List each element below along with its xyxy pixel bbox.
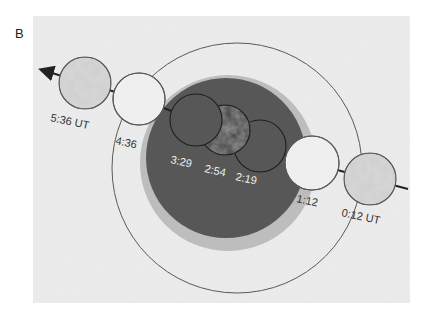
moon-outline	[113, 73, 165, 125]
lunar-eclipse-diagram: 0:12 UT1:122:192:543:294:365:36 UT	[0, 0, 431, 317]
moon-full	[344, 153, 396, 205]
moon-full	[59, 57, 111, 109]
moon-outline	[170, 94, 222, 146]
moon-outline	[285, 136, 339, 190]
